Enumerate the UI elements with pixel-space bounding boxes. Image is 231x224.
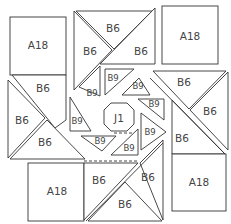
piece-a18-top-right: A18 — [162, 6, 218, 64]
label-b9: B9 — [132, 81, 143, 91]
label-b6: B6 — [203, 105, 217, 117]
piece-a18-top-left: A18 — [10, 17, 66, 75]
piece-a18-bottom-left: A18 — [28, 163, 84, 221]
label-a18: A18 — [28, 39, 49, 51]
label-a18: A18 — [47, 185, 68, 197]
label-b6: B6 — [134, 45, 148, 57]
piece-b9-8 — [70, 97, 91, 131]
label-b9: B9 — [86, 88, 97, 98]
label-b6: B6 — [15, 114, 29, 126]
label-b6: B6 — [175, 132, 189, 144]
label-j1: J1 — [113, 112, 124, 124]
piece-a18-bottom-right: A18 — [172, 154, 226, 211]
label-b6: B6 — [141, 171, 155, 183]
label-a18: A18 — [189, 176, 210, 188]
label-b6: B6 — [92, 174, 106, 186]
quilt-diagram: A18 B6 B6 B6 A18 B6 B6 B6 B6 B6 B6 — [0, 0, 231, 224]
label-b6: B6 — [118, 198, 132, 210]
label-b6: B6 — [177, 76, 191, 88]
label-b6: B6 — [36, 82, 50, 94]
label-b9: B9 — [148, 99, 159, 109]
label-b9: B9 — [71, 116, 82, 126]
label-a18: A18 — [180, 30, 201, 42]
label-b6: B6 — [83, 45, 97, 57]
label-b9: B9 — [94, 136, 105, 146]
label-b6: B6 — [38, 136, 52, 148]
label-b9: B9 — [123, 143, 134, 153]
label-b9: B9 — [107, 73, 118, 83]
label-b6: B6 — [106, 22, 120, 34]
label-b9: B9 — [144, 127, 155, 137]
